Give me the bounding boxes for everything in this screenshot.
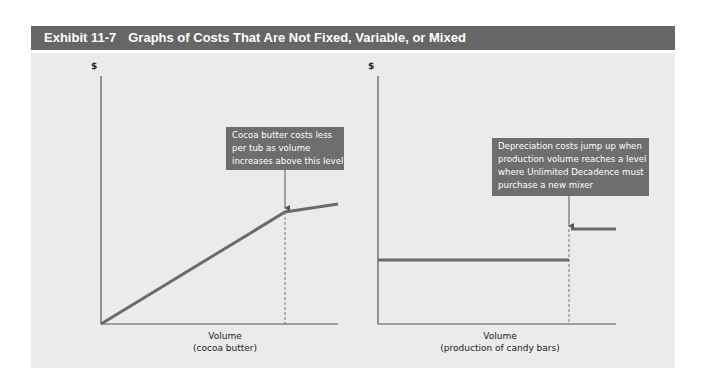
right-callout: Depreciation costs jump up when producti… [492,138,649,196]
right-callout-line: purchase a new mixer [498,179,643,192]
right-callout-line: where Unlimited Decadence must [498,166,643,179]
right-callout-line: Depreciation costs jump up when [498,140,643,153]
left-y-label: $ [91,61,97,71]
right-x-label-line2: (production of candy bars) [420,342,580,354]
left-callout-line: per tub as volume [232,142,338,155]
left-callout-line: Cocoa butter costs less [232,129,338,142]
left-callout-line: increases above this level [232,155,338,168]
right-x-label: Volume (production of candy bars) [420,330,580,354]
left-cost-line [101,204,338,324]
right-x-label-line1: Volume [420,330,580,342]
left-x-label-line1: Volume [150,330,300,342]
right-y-label: $ [368,61,374,71]
left-x-label: Volume (cocoa butter) [150,330,300,354]
left-chart [101,76,338,324]
left-callout: Cocoa butter costs less per tub as volum… [226,127,344,170]
right-chart [378,76,616,324]
right-callout-line: production volume reaches a level [498,153,643,166]
left-x-label-line2: (cocoa butter) [150,342,300,354]
